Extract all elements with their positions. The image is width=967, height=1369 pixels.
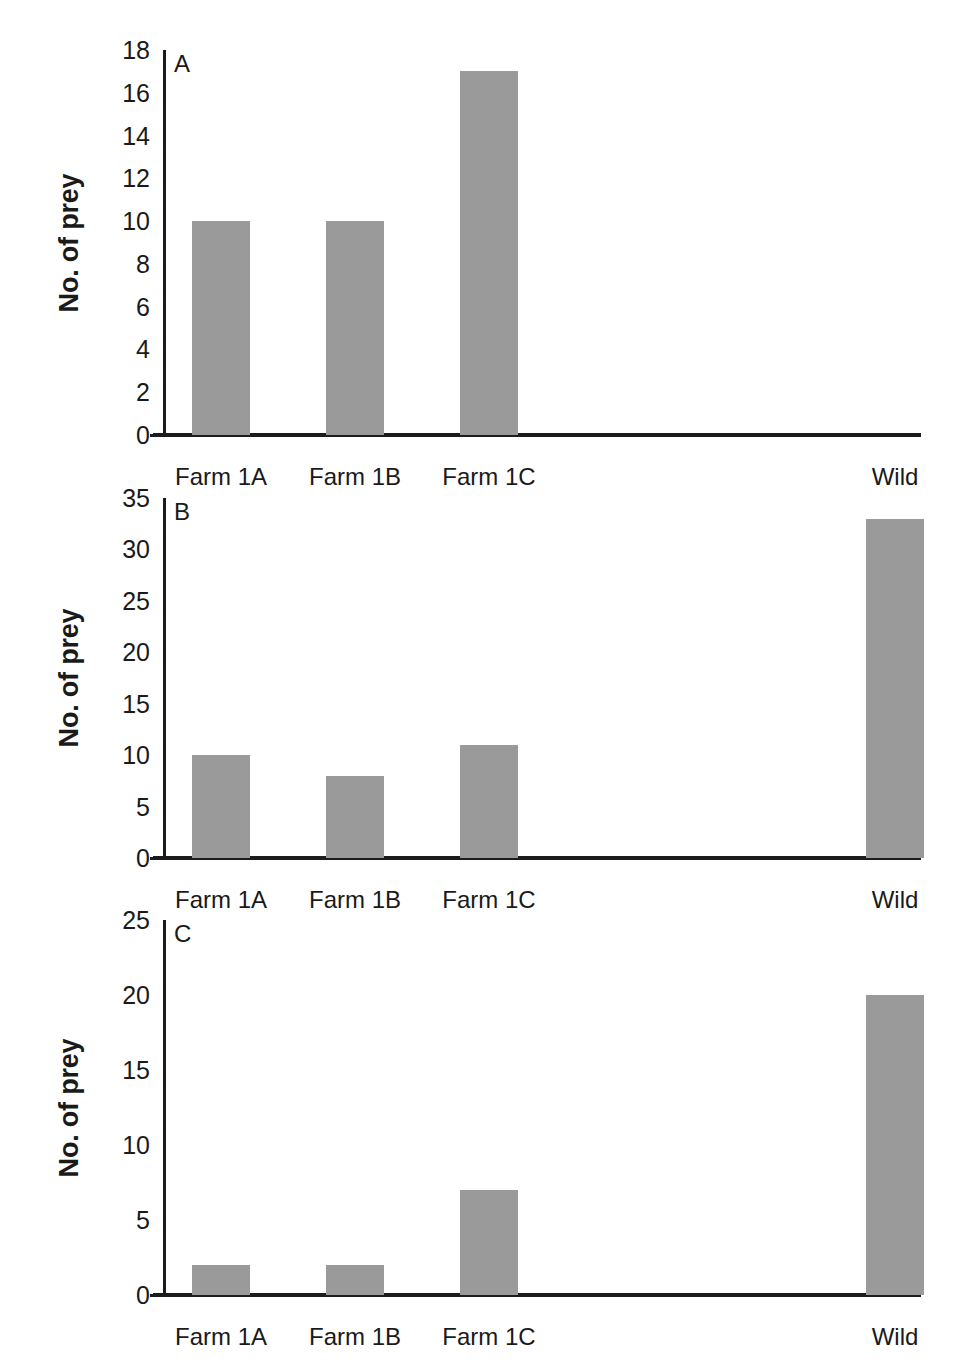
- x-tick-label: Farm 1A: [175, 886, 267, 914]
- x-tick-label: Farm 1B: [309, 886, 401, 914]
- y-tick-label: 35: [122, 486, 150, 511]
- x-tick-label: Farm 1C: [442, 463, 535, 491]
- y-tick-label: 10: [122, 743, 150, 768]
- y-tick-label: 0: [136, 1283, 150, 1308]
- x-tick-label: Farm 1A: [175, 1323, 267, 1351]
- y-axis-title-text: No. of prey: [53, 609, 85, 748]
- y-tick-label: 20: [122, 983, 150, 1008]
- panel-letter-c: C: [174, 922, 191, 946]
- bar: [192, 755, 250, 858]
- bar: [460, 71, 518, 435]
- y-tick-label: 4: [136, 337, 150, 362]
- panel-letter-b: B: [174, 500, 190, 524]
- y-tick-label: 12: [122, 166, 150, 191]
- bar: [326, 776, 384, 858]
- bar: [460, 1190, 518, 1295]
- bar: [866, 519, 924, 858]
- bar: [326, 1265, 384, 1295]
- x-tick-label: Wild: [872, 463, 919, 491]
- y-tick-label: 30: [122, 537, 150, 562]
- x-axis-line: [153, 856, 921, 860]
- y-axis-line: [163, 50, 166, 435]
- figure-root: No. of prey024681012141618AFarm 1AFarm 1…: [0, 0, 967, 1369]
- y-tick-label: 20: [122, 640, 150, 665]
- y-tick-label: 16: [122, 80, 150, 105]
- y-tick-label: 5: [136, 1208, 150, 1233]
- y-axis-title-a: No. of prey: [0, 227, 40, 259]
- y-tick-label: 25: [122, 588, 150, 613]
- y-axis-line: [163, 920, 166, 1295]
- y-axis-title-b: No. of prey: [0, 662, 40, 694]
- plot-area-a: A: [163, 50, 918, 435]
- y-tick-label: 6: [136, 294, 150, 319]
- plot-area-b: B: [163, 498, 918, 858]
- x-tick-label: Farm 1B: [309, 1323, 401, 1351]
- plot-area-c: C: [163, 920, 918, 1295]
- zero-tick-mark: [150, 1294, 163, 1297]
- bar: [192, 221, 250, 435]
- chart-panel-b: No. of prey05101520253035BFarm 1AFarm 1B…: [0, 0, 967, 1369]
- panel-letter-a: A: [174, 52, 190, 76]
- bar: [192, 1265, 250, 1295]
- x-tick-label: Wild: [872, 1323, 919, 1351]
- y-tick-label: 0: [136, 423, 150, 448]
- y-tick-label: 18: [122, 38, 150, 63]
- y-tick-label: 14: [122, 123, 150, 148]
- bar: [326, 221, 384, 435]
- x-tick-label: Farm 1B: [309, 463, 401, 491]
- y-axis-line: [163, 498, 166, 858]
- x-axis-line: [153, 1293, 921, 1297]
- x-tick-label: Farm 1C: [442, 1323, 535, 1351]
- x-tick-label: Farm 1A: [175, 463, 267, 491]
- y-axis-title-c: No. of prey: [0, 1092, 40, 1124]
- bar: [460, 745, 518, 858]
- x-axis-line: [153, 433, 921, 437]
- y-tick-label: 25: [122, 908, 150, 933]
- zero-tick-mark: [150, 857, 163, 860]
- y-tick-label: 10: [122, 1133, 150, 1158]
- y-tick-label: 15: [122, 691, 150, 716]
- y-tick-label: 15: [122, 1058, 150, 1083]
- y-axis-title-text: No. of prey: [53, 173, 85, 312]
- y-tick-label: 5: [136, 794, 150, 819]
- zero-tick-mark: [150, 434, 163, 437]
- x-tick-label: Farm 1C: [442, 886, 535, 914]
- y-tick-label: 2: [136, 380, 150, 405]
- y-tick-label: 0: [136, 846, 150, 871]
- chart-panel-c: No. of prey0510152025CFarm 1AFarm 1BFarm…: [0, 0, 967, 1369]
- bar: [866, 995, 924, 1295]
- chart-panel-a: No. of prey024681012141618AFarm 1AFarm 1…: [0, 0, 967, 1369]
- y-tick-label: 10: [122, 209, 150, 234]
- x-tick-label: Wild: [872, 886, 919, 914]
- y-tick-label: 8: [136, 251, 150, 276]
- y-axis-title-text: No. of prey: [53, 1038, 85, 1177]
